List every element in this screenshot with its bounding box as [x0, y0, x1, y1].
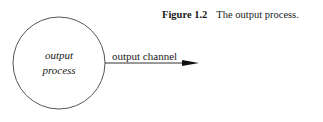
- arrowhead-icon: [182, 60, 199, 66]
- edge-label: output channel: [112, 50, 177, 62]
- node-label-line2: process: [14, 63, 104, 77]
- node-label-line1: output: [14, 48, 104, 62]
